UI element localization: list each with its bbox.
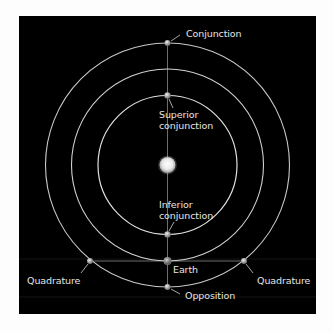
quadrature-right-label: Quadrature (257, 275, 310, 286)
opposition-label: Opposition (185, 290, 235, 301)
inferior-conjunction-label-line1: Inferior (159, 199, 192, 210)
quadrature-right-leader (246, 264, 253, 273)
diagram-canvas: Conjunction Superior conjunction Inferio… (0, 0, 333, 332)
quadrature-right-planet-icon (241, 258, 247, 264)
quadrature-left-leader (81, 264, 88, 273)
inferior-conjunction-label-line2: conjunction (159, 210, 213, 221)
inferior-conjunction-leader (169, 222, 174, 231)
superior-conjunction-planet-icon (164, 92, 170, 98)
superior-conjunction-leader (169, 99, 173, 108)
sun-icon-core (160, 157, 176, 173)
superior-conjunction-label-line1: Superior (159, 109, 198, 120)
earth-icon (164, 257, 172, 265)
inferior-conjunction-planet-icon (164, 231, 170, 237)
conjunction-label: Conjunction (186, 28, 241, 39)
earth-label: Earth (173, 264, 198, 275)
conjunction-leader (171, 35, 180, 41)
quadrature-left-planet-icon (87, 258, 93, 264)
opposition-leader (171, 289, 180, 294)
conjunction-planet-icon (165, 40, 171, 46)
superior-conjunction-label-line2: conjunction (159, 120, 213, 131)
opposition-planet-icon (165, 284, 171, 290)
quadrature-left-label: Quadrature (27, 275, 80, 286)
